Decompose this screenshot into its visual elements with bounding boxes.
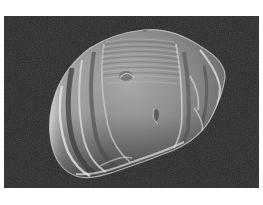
micrograph-panel bbox=[4, 16, 259, 188]
pollen-grain-image bbox=[4, 16, 259, 188]
figure bbox=[0, 0, 263, 205]
